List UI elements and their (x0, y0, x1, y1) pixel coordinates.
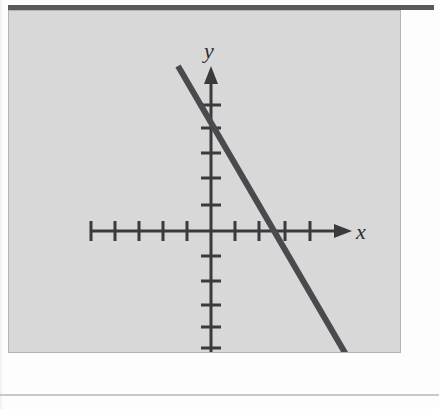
page-left-seam (0, 0, 2, 409)
plot-panel (8, 10, 401, 353)
bottom-horizontal-rule (0, 394, 439, 396)
figure-root: x y (0, 0, 439, 409)
